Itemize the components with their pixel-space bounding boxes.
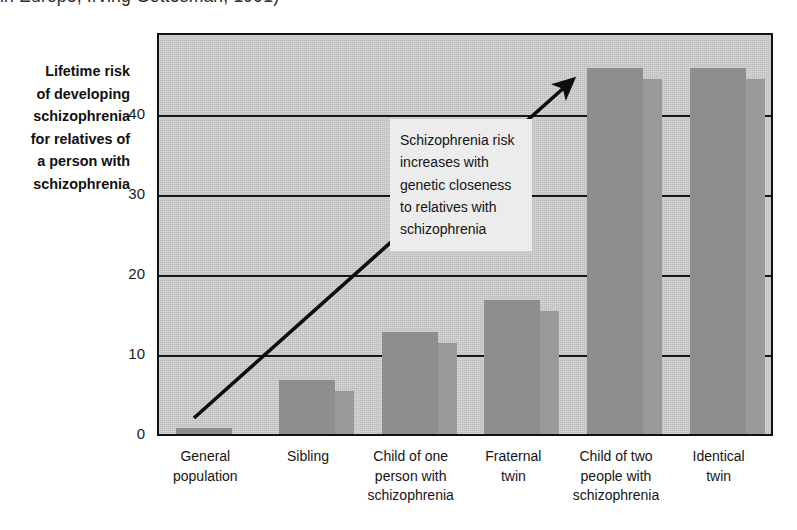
- annotation-line-1: Schizophrenia risk: [400, 129, 524, 151]
- gridline: [159, 275, 771, 277]
- bar: [690, 68, 746, 436]
- annotation-line-2: increases with: [400, 151, 524, 173]
- x-tick-label-line: Child of two: [557, 447, 675, 467]
- bar: [484, 300, 540, 436]
- x-tick-label-line: twin: [454, 467, 572, 487]
- y-axis-label-line-2: of developing: [8, 83, 130, 106]
- annotation-line-5: schizophrenia: [400, 218, 524, 240]
- y-tick-label: 0: [109, 426, 145, 441]
- annotation-textbox: Schizophrenia risk increases with geneti…: [390, 119, 532, 251]
- bar: [382, 332, 438, 436]
- gridline: [159, 115, 771, 117]
- bar: [279, 380, 335, 436]
- y-tick-label: 40: [109, 106, 145, 121]
- annotation-line-3: genetic closeness: [400, 174, 524, 196]
- x-tick-label-line: Identical: [660, 447, 778, 467]
- gridline: [159, 355, 771, 357]
- x-tick-label-line: twin: [660, 467, 778, 487]
- y-axis-label-line-4: for relatives of: [8, 128, 130, 151]
- x-tick-label: Generalpopulation: [146, 447, 264, 486]
- x-tick-label-line: schizophrenia: [352, 486, 470, 506]
- x-tick-label: Sibling: [249, 447, 367, 467]
- bar-shadow: [335, 391, 354, 436]
- plot-area: Schizophrenia risk increases with geneti…: [157, 33, 773, 436]
- x-tick-label: Child of oneperson withschizophrenia: [352, 447, 470, 506]
- y-axis-label-line-5: a person with: [8, 150, 130, 173]
- y-axis-label-line-1: Lifetime risk: [8, 60, 130, 83]
- bar-shadow: [746, 79, 765, 436]
- x-tick-label-line: people with: [557, 467, 675, 487]
- y-tick-label: 20: [109, 266, 145, 281]
- bar-shadow: [643, 79, 662, 436]
- y-axis-label: Lifetime risk of developing schizophreni…: [8, 60, 130, 195]
- x-tick-label-line: person with: [352, 467, 470, 487]
- annotation-line-4: to relatives with: [400, 196, 524, 218]
- x-tick-label: Child of twopeople withschizophrenia: [557, 447, 675, 506]
- x-tick-label-line: General: [146, 447, 264, 467]
- bar: [587, 68, 643, 436]
- chart-figure: in Europe, Irving Gottesman, 1991) Lifet…: [0, 0, 797, 530]
- bar-shadow: [540, 311, 559, 436]
- y-tick-label: 10: [109, 346, 145, 361]
- x-tick-label-line: population: [146, 467, 264, 487]
- figure-caption: in Europe, Irving Gottesman, 1991): [0, 0, 500, 8]
- bar: [176, 428, 232, 436]
- x-tick-label-line: Sibling: [249, 447, 367, 467]
- x-tick-label-line: Fraternal: [454, 447, 572, 467]
- x-tick-label-line: Child of one: [352, 447, 470, 467]
- y-tick-label: 30: [109, 186, 145, 201]
- bar-shadow: [438, 343, 457, 436]
- x-tick-label-line: schizophrenia: [557, 486, 675, 506]
- x-tick-label: Fraternaltwin: [454, 447, 572, 486]
- x-tick-label: Identicaltwin: [660, 447, 778, 486]
